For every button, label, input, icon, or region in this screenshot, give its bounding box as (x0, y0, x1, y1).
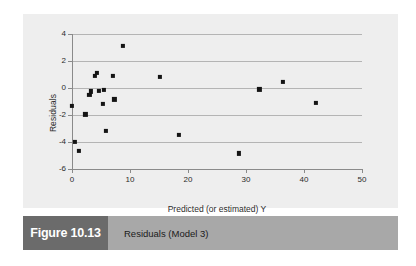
x-axis-tick (188, 169, 189, 173)
figure-container: Residuals Predicted (or estimated) Y 420… (0, 0, 416, 266)
scatter-point (95, 71, 99, 75)
figure-number-box: Figure 10.13 (23, 216, 108, 250)
y-axis-tick (68, 61, 72, 62)
y-axis-tick-label: -6 (59, 165, 66, 173)
x-axis-tick (362, 169, 363, 173)
y-axis-tick-label: 4 (62, 30, 66, 38)
y-axis-tick (68, 115, 72, 116)
y-axis-label: Residuals (48, 94, 58, 132)
scatter-point (102, 88, 106, 92)
scatter-point (77, 149, 81, 153)
y-axis-tick-label: 2 (62, 57, 66, 65)
scatter-point (83, 112, 87, 116)
scatter-point (314, 101, 318, 105)
plot-area: 420-2-4-6 01020304050 (72, 34, 362, 169)
x-axis-tick-label: 30 (242, 176, 251, 184)
y-axis-line (72, 34, 73, 169)
figure-caption-text: Residuals (Model 3) (108, 216, 398, 250)
x-axis-tick-label: 10 (126, 176, 135, 184)
gridline (72, 115, 362, 116)
scatter-point (101, 102, 105, 106)
scatter-point (158, 74, 162, 78)
y-axis-tick (68, 88, 72, 89)
x-axis-tick (246, 169, 247, 173)
scatter-point (104, 128, 108, 132)
y-axis-tick-label: 0 (62, 84, 66, 92)
gridline (72, 61, 362, 62)
gridline (72, 88, 362, 89)
x-axis-label: Predicted (or estimated) Y (168, 204, 267, 214)
gridline (72, 142, 362, 143)
x-axis-tick-label: 20 (184, 176, 193, 184)
scatter-point (111, 74, 115, 78)
x-axis-tick (130, 169, 131, 173)
scatter-point (70, 103, 74, 107)
scatter-point (257, 87, 261, 91)
x-axis-line (72, 169, 362, 170)
figure-caption-bar: Figure 10.13 Residuals (Model 3) (23, 216, 398, 250)
x-axis-tick (304, 169, 305, 173)
scatter-point (281, 80, 285, 84)
y-axis-tick (68, 142, 72, 143)
figure-number-label: Figure 10.13 (30, 226, 101, 240)
scatter-point (121, 44, 125, 48)
y-axis-tick (68, 34, 72, 35)
x-axis-tick-label: 40 (300, 176, 309, 184)
scatter-point (177, 133, 181, 137)
chart-panel: Residuals Predicted (or estimated) Y 420… (23, 14, 398, 208)
y-axis-tick-label: -2 (59, 111, 66, 119)
gridline (72, 34, 362, 35)
x-axis-tick (72, 169, 73, 173)
x-axis-tick-label: 50 (358, 176, 367, 184)
scatter-point (89, 89, 93, 93)
scatter-point (97, 89, 101, 93)
x-axis-tick-label: 0 (70, 176, 74, 184)
scatter-point (73, 140, 77, 144)
y-axis-tick-label: -4 (59, 138, 66, 146)
scatter-point (112, 97, 116, 101)
scatter-point (237, 151, 241, 155)
